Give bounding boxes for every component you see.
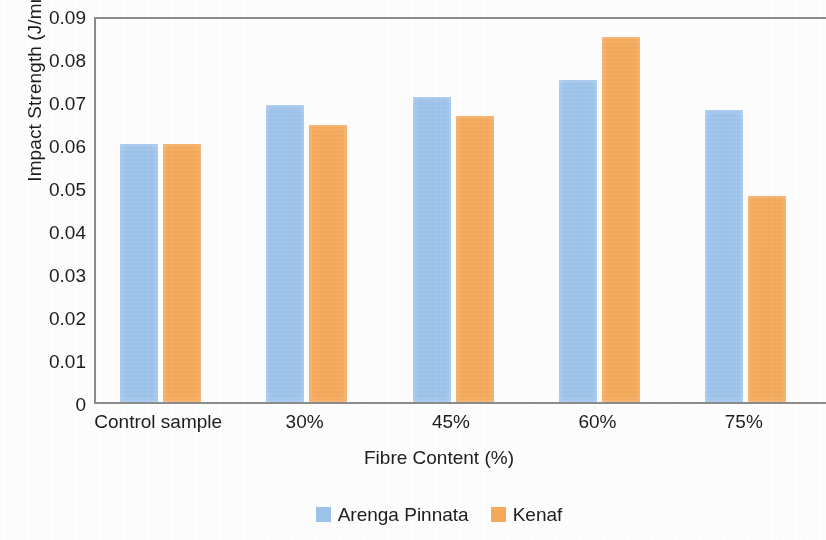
- legend-entry: Kenaf: [491, 505, 563, 524]
- y-tick-label: 0.06: [0, 137, 86, 156]
- legend-swatch-icon: [491, 507, 506, 522]
- bar-arenga-pinnata-control-sample: [120, 144, 158, 402]
- y-axis-tick-labels: 0.090.080.070.060.050.040.030.020.010: [0, 0, 86, 420]
- bar-arenga-pinnata-60-: [559, 80, 597, 403]
- bar-kenaf-60-: [602, 37, 640, 403]
- legend-label: Arenga Pinnata: [338, 505, 469, 524]
- y-tick-label: 0: [0, 395, 86, 414]
- legend-label: Kenaf: [513, 505, 563, 524]
- legend-swatch-icon: [316, 507, 331, 522]
- bar-kenaf-30-: [309, 125, 347, 402]
- chart-legend: Arenga PinnataKenaf: [94, 505, 784, 524]
- x-axis-tick-labels: Control sample30%45%60%75%: [94, 410, 826, 440]
- legend-entry: Arenga Pinnata: [316, 505, 469, 524]
- plot-area: [94, 17, 826, 404]
- bars-layer: [96, 19, 826, 402]
- x-tick-label: 30%: [286, 410, 324, 434]
- bar-arenga-pinnata-30-: [266, 105, 304, 402]
- y-tick-label: 0.04: [0, 223, 86, 242]
- y-tick-label: 0.05: [0, 180, 86, 199]
- x-tick-label: 45%: [432, 410, 470, 434]
- y-tick-label: 0.07: [0, 94, 86, 113]
- x-tick-label: Control sample: [94, 410, 222, 434]
- bar-chart-figure: Impact Strength (J/mm2) 0.090.080.070.06…: [0, 0, 826, 540]
- y-tick-label: 0.01: [0, 352, 86, 371]
- y-tick-label: 0.09: [0, 8, 86, 27]
- x-tick-label: 75%: [725, 410, 763, 434]
- x-axis-title: Fibre Content (%): [94, 447, 784, 469]
- bar-kenaf-75-: [748, 196, 786, 402]
- x-tick-label: 60%: [578, 410, 616, 434]
- bar-arenga-pinnata-45-: [413, 97, 451, 402]
- y-tick-label: 0.08: [0, 51, 86, 70]
- bar-arenga-pinnata-75-: [705, 110, 743, 402]
- bar-kenaf-45-: [456, 116, 494, 402]
- y-tick-label: 0.03: [0, 266, 86, 285]
- bar-kenaf-control-sample: [163, 144, 201, 402]
- y-tick-label: 0.02: [0, 309, 86, 328]
